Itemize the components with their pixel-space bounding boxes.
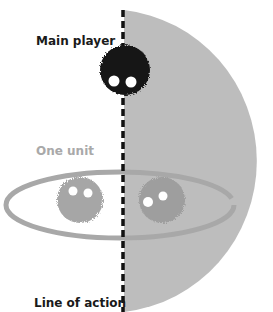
main-player-eye-right [126,77,137,88]
unit-right-eye-left [143,197,153,207]
unit-right [139,177,185,223]
one-unit-label: One unit [36,144,94,158]
unit-left-eye-right [84,189,93,198]
main-player-eye-left [109,76,120,87]
unit-left [57,177,103,223]
unit-right-eye-right [159,192,168,201]
main-player-label: Main player [36,34,115,48]
unit-left-eye-left [69,187,78,196]
line-of-action-label: Line of action [34,296,126,310]
main-player-character [100,45,150,95]
